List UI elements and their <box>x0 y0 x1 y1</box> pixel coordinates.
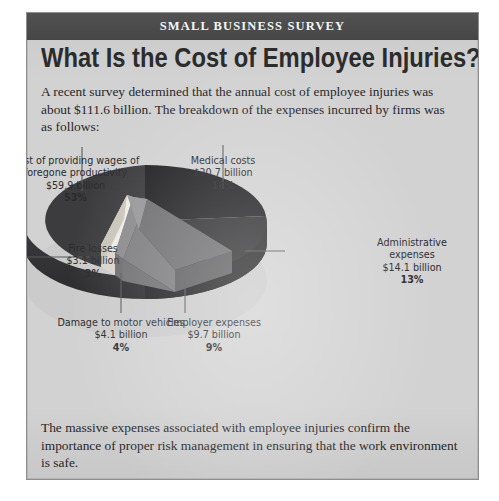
callout-employer-amount: $9.7 billion <box>139 329 289 341</box>
callout-medical-line1: Medical costs <box>148 155 298 167</box>
banner-title: SMALL BUSINESS SURVEY <box>160 19 346 34</box>
pie-chart: Cost of providing wages of foregone prod… <box>27 133 478 423</box>
callout-wages-amount: $59.9 billion <box>26 180 168 192</box>
callout-admin-line2: expenses <box>357 249 467 261</box>
callout-employer: Employer expenses $9.7 billion 9% <box>139 317 289 354</box>
callout-medical-amount: $20.7 billion <box>148 167 298 179</box>
callout-medical-pct: 18% <box>148 180 298 192</box>
callout-wages-pct: 53% <box>26 192 168 204</box>
callout-wages-line2: foregone productivity <box>26 167 168 179</box>
callout-fire-line1: Fire losses <box>35 243 151 255</box>
callout-fire-amount: $3.1 billion <box>35 255 151 267</box>
infographic-card: SMALL BUSINESS SURVEY What Is the Cost o… <box>26 12 479 480</box>
callout-fire: Fire losses $3.1 billion 3% <box>35 243 151 280</box>
intro-paragraph: A recent survey determined that the annu… <box>41 83 457 136</box>
page-title: What Is the Cost of Employee Injuries? <box>41 43 411 73</box>
footer-paragraph: The massive expenses associated with emp… <box>41 419 461 472</box>
callout-medical: Medical costs $20.7 billion 18% <box>148 155 298 192</box>
callout-wages: Cost of providing wages of foregone prod… <box>26 155 168 205</box>
callout-admin-line1: Administrative <box>357 237 467 249</box>
callout-employer-pct: 9% <box>139 342 289 354</box>
banner: SMALL BUSINESS SURVEY <box>27 13 478 40</box>
callout-administrative: Administrative expenses $14.1 billion 13… <box>357 237 467 287</box>
callout-wages-line1: Cost of providing wages of <box>26 155 168 167</box>
callout-fire-pct: 3% <box>35 268 151 280</box>
callout-admin-pct: 13% <box>357 274 467 286</box>
callout-admin-amount: $14.1 billion <box>357 262 467 274</box>
callout-employer-line1: Employer expenses <box>139 317 289 329</box>
